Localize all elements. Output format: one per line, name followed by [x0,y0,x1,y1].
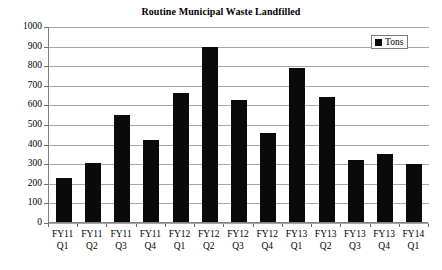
chart-title: Routine Municipal Waste Landfilled [0,6,442,18]
bar [231,100,247,222]
bar [114,115,130,222]
bar [85,163,101,222]
x-axis-tick-label: FY11Q3 [106,229,135,252]
x-axis-tick-label-quarter: Q3 [340,241,369,253]
x-axis-tick-label-year: FY13 [282,229,311,241]
bar [56,178,72,222]
x-axis-tick-label-quarter: Q4 [136,241,165,253]
x-axis-tick-label: FY12Q2 [194,229,223,252]
gridline [49,27,429,28]
x-axis-tick-label-year: FY13 [370,229,399,241]
x-axis-tick-label-quarter: Q2 [311,241,340,253]
x-axis-tick-label-quarter: Q2 [77,241,106,253]
x-axis-tick-label-year: FY12 [165,229,194,241]
y-axis-tick-label: 500 [0,120,42,130]
x-axis-tick-label-quarter: Q4 [253,241,282,253]
x-axis-tick-label-year: FY13 [340,229,369,241]
y-axis-tick-label: 600 [0,100,42,110]
bar [260,133,276,222]
y-axis-tick-label: 400 [0,140,42,150]
x-axis-tick-label: FY13Q4 [370,229,399,252]
x-axis-tick-label: FY12Q1 [165,229,194,252]
x-axis-tick-label-year: FY11 [106,229,135,241]
bar [406,164,422,222]
x-axis-tick-label-quarter: Q4 [370,241,399,253]
legend-label-tons: Tons [385,37,403,47]
bar [377,154,393,222]
x-axis-tick-label: FY12Q3 [223,229,252,252]
x-axis-tick-label-year: FY11 [77,229,106,241]
x-axis-tick-label-year: FY12 [253,229,282,241]
x-axis-tick-label: FY14Q1 [399,229,428,252]
gridline [49,86,429,87]
y-axis-tick-label: 0 [0,218,42,228]
x-axis-tick-label-quarter: Q1 [48,241,77,253]
x-axis-tick-label: FY11Q2 [77,229,106,252]
x-axis-tick-label: FY11Q4 [136,229,165,252]
legend: Tons [371,35,408,49]
x-axis-tick-label-year: FY12 [223,229,252,241]
x-axis-tick-label-quarter: Q2 [194,241,223,253]
y-axis-tick-label: 1000 [0,22,42,32]
y-axis-tick-label: 900 [0,42,42,52]
x-axis-tick-label: FY13Q1 [282,229,311,252]
x-axis-tick-label-year: FY11 [48,229,77,241]
gridline [49,66,429,67]
bar [202,47,218,222]
y-axis-tick-label: 800 [0,61,42,71]
x-axis-tick-label-year: FY14 [399,229,428,241]
x-axis-tick-label-quarter: Q3 [106,241,135,253]
x-axis-tick-label-quarter: Q1 [399,241,428,253]
x-axis-tick-label-quarter: Q1 [165,241,194,253]
y-axis-tick-label: 200 [0,179,42,189]
x-axis-tick-label-quarter: Q3 [223,241,252,253]
x-axis-tick-label-year: FY12 [194,229,223,241]
gridline [49,223,429,224]
bar [319,97,335,222]
x-axis-tick-label-quarter: Q1 [282,241,311,253]
x-axis-tick-label-year: FY13 [311,229,340,241]
y-axis-tick-label: 300 [0,159,42,169]
x-axis-tick-label: FY11Q1 [48,229,77,252]
bar [143,140,159,222]
bar-chart: Routine Municipal Waste Landfilled 01002… [0,0,442,270]
bar [173,93,189,222]
legend-swatch-tons [375,39,382,46]
bar [289,68,305,222]
x-axis-tick-label: FY13Q3 [340,229,369,252]
x-axis-tick-label-year: FY11 [136,229,165,241]
plot-area [48,27,428,223]
x-axis-tick-label: FY13Q2 [311,229,340,252]
bar [348,160,364,222]
y-axis-tick-label: 100 [0,198,42,208]
y-axis-tick-label: 700 [0,81,42,91]
x-axis-tick-label: FY12Q4 [253,229,282,252]
